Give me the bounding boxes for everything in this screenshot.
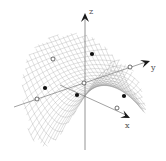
- open-point: [115, 106, 119, 110]
- filled-point: [122, 94, 126, 98]
- open-point: [82, 81, 86, 85]
- z-axis-label: z: [89, 8, 93, 16]
- surface-figure: [0, 0, 166, 161]
- filled-point: [43, 86, 47, 90]
- filled-point: [90, 52, 94, 56]
- open-point: [35, 97, 39, 101]
- open-point: [51, 57, 55, 61]
- open-point: [128, 65, 132, 69]
- filled-point: [75, 93, 79, 97]
- critical-points: [35, 52, 132, 110]
- y-axis-label: y: [151, 64, 156, 72]
- x-axis-label: x: [125, 122, 130, 130]
